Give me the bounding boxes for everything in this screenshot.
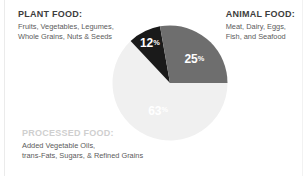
processed-food-line-2: trans-Fats, Sugars, & Refined Grains — [22, 151, 143, 161]
pie-slice-group — [112, 26, 227, 141]
left-edge-rule — [4, 0, 5, 176]
plant-food-line-1: Fruits, Vegetables, Legumes, — [18, 22, 114, 32]
plant-food-line-2: Whole Grains, Nuts & Seeds — [18, 32, 114, 42]
animal-food-body: Meat, Dairy, Eggs, Fish, and Seafood — [226, 22, 295, 41]
plant-food-heading: PLANT FOOD: — [18, 9, 114, 20]
plant-food-body: Fruits, Vegetables, Legumes, Whole Grain… — [18, 22, 114, 41]
callout-plant-food: PLANT FOOD: Fruits, Vegetables, Legumes,… — [18, 9, 114, 41]
pie-chart: 25%63%12% — [112, 25, 228, 141]
animal-food-heading: ANIMAL FOOD: — [226, 9, 295, 20]
pie-chart-svg: 25%63%12% — [112, 25, 228, 141]
callout-animal-food: ANIMAL FOOD: Meat, Dairy, Eggs, Fish, an… — [226, 9, 295, 41]
processed-food-body: Added Vegetable Oils, trans-Fats, Sugars… — [22, 141, 143, 160]
infographic-canvas: PLANT FOOD: Fruits, Vegetables, Legumes,… — [0, 0, 303, 176]
animal-food-line-1: Meat, Dairy, Eggs, — [226, 22, 295, 32]
animal-food-line-2: Fish, and Seafood — [226, 32, 295, 42]
right-edge-rule — [302, 0, 303, 176]
processed-food-line-1: Added Vegetable Oils, — [22, 141, 143, 151]
